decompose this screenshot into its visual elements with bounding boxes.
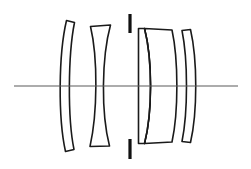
- lens-cross-section-svg: [0, 0, 251, 169]
- lens-diagram: Photographic objective lens cross-sectio…: [0, 0, 251, 169]
- diagram-background: [0, 0, 251, 169]
